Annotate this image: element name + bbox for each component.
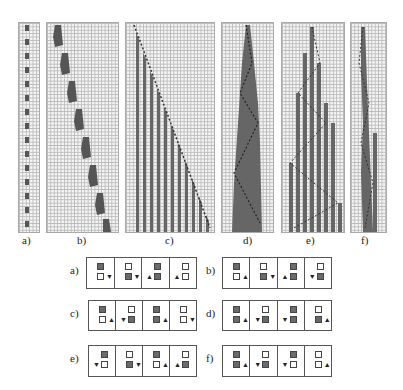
panel-label-f: f) xyxy=(361,234,368,246)
head-trace-f xyxy=(351,23,386,232)
rule-cell: ▲ xyxy=(141,258,169,288)
rule-label-d: d) xyxy=(206,307,215,319)
rule-label-a: a) xyxy=(70,264,79,276)
rule-cell: ▼ xyxy=(277,346,304,376)
rule-cell: ▼ xyxy=(249,258,276,288)
rule-cell: ▲ xyxy=(223,258,249,288)
rule-cell: ▲ xyxy=(304,346,331,376)
evolution-panel-e xyxy=(281,22,345,233)
rule-cell: ▲ xyxy=(89,301,115,330)
arrow-up-icon: ▲ xyxy=(162,317,169,324)
arrow-up-icon: ▲ xyxy=(162,362,169,369)
rule-cell: ▲ xyxy=(169,258,197,288)
evolution-panel-c xyxy=(125,22,215,233)
arrow-up-icon: ▲ xyxy=(242,362,249,369)
rule-cell: ▼ xyxy=(87,258,114,288)
arrow-up-icon: ▲ xyxy=(324,317,331,324)
rule-cell: ▼ xyxy=(115,346,142,376)
rule-label-c: c) xyxy=(70,307,79,319)
rule-cell: ▲ xyxy=(142,301,169,330)
rule-cell: ▼ xyxy=(249,301,276,330)
rule-label-b: b) xyxy=(206,264,215,276)
evolution-panel-d xyxy=(221,22,274,233)
rule-table-b: ▲ ▼ ▲ ▼ xyxy=(222,257,332,289)
arrow-down-icon: ▼ xyxy=(189,317,196,324)
rule-label-f: f) xyxy=(206,352,213,364)
rule-table-d: ▲ ▼ ▼ ▲ xyxy=(222,300,332,331)
evolution-panel-f xyxy=(350,22,387,233)
arrow-down-icon: ▼ xyxy=(93,362,100,369)
head-trace-e xyxy=(282,23,344,232)
rule-label-e: e) xyxy=(70,352,79,364)
rule-cell: ▲ xyxy=(223,301,249,330)
rule-cell: ▼ xyxy=(115,301,142,330)
arrow-down-icon: ▼ xyxy=(254,362,261,369)
arrow-up-icon: ▲ xyxy=(282,274,289,281)
arrow-up-icon: ▲ xyxy=(174,274,181,281)
rule-cell: ▼ xyxy=(89,346,115,376)
arrow-up-icon: ▲ xyxy=(242,317,249,324)
rule-cell: ▼ xyxy=(277,301,304,330)
rule-cell: ▲ xyxy=(169,346,196,376)
panel-label-a: a) xyxy=(22,234,31,246)
arrow-down-icon: ▼ xyxy=(106,274,113,281)
arrow-down-icon: ▼ xyxy=(135,362,142,369)
arrow-down-icon: ▼ xyxy=(309,274,316,281)
rule-cell: ▼ xyxy=(169,301,196,330)
arrow-down-icon: ▼ xyxy=(282,317,289,324)
rule-cell: ▼ xyxy=(114,258,142,288)
arrow-up-icon: ▲ xyxy=(242,274,249,281)
arrow-down-icon: ▼ xyxy=(282,362,289,369)
rule-cell: ▲ xyxy=(277,258,304,288)
arrow-down-icon: ▼ xyxy=(134,274,141,281)
panel-label-c: c) xyxy=(165,234,174,246)
arrow-down-icon: ▼ xyxy=(254,317,261,324)
arrow-up-icon: ▲ xyxy=(174,362,181,369)
rule-cell: ▲ xyxy=(223,346,249,376)
evolution-panel-a xyxy=(18,22,40,233)
head-trace-c xyxy=(126,23,214,232)
rule-cell: ▲ xyxy=(142,346,169,376)
rule-table-f: ▲ ▼ ▼ ▲ xyxy=(222,345,332,377)
rule-cell: ▼ xyxy=(304,258,331,288)
arrow-up-icon: ▲ xyxy=(108,317,115,324)
panel-label-b: b) xyxy=(77,234,86,246)
arrow-up-icon: ▲ xyxy=(324,362,331,369)
rule-table-c: ▲ ▼ ▲ ▼ xyxy=(88,300,197,331)
head-trace-a xyxy=(19,23,39,232)
evolution-panel-b xyxy=(46,22,119,233)
rule-cell: ▼ xyxy=(249,346,276,376)
panel-label-d: d) xyxy=(243,234,252,246)
rule-table-a: ▼ ▼ ▲ ▲ xyxy=(86,257,197,289)
rule-cell: ▲ xyxy=(304,301,331,330)
head-trace-d xyxy=(222,23,273,232)
head-trace-b xyxy=(47,23,118,232)
panel-label-e: e) xyxy=(306,234,315,246)
arrow-down-icon: ▼ xyxy=(269,274,276,281)
arrow-up-icon: ▲ xyxy=(146,274,153,281)
rule-table-e: ▼ ▼ ▲ ▲ xyxy=(88,345,197,377)
arrow-down-icon: ▼ xyxy=(120,317,127,324)
